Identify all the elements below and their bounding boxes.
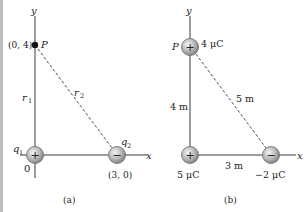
charge-q2: − (109, 147, 126, 164)
diagram-canvas: y x (0, 4) P r 1 r 2 + q 1 0 − (0, 0, 306, 212)
r1-subscript: 1 (28, 97, 32, 105)
point-p-dot (32, 42, 38, 48)
point-p-label-a: P (40, 39, 48, 50)
hypotenuse-dashed-line (193, 50, 266, 148)
charge-neg2uc-label: −2 μC (255, 169, 285, 180)
caption-a: (a) (63, 195, 75, 205)
point-p-coords: (0, 4) (8, 40, 32, 50)
point-p-charge: 4 μC (201, 38, 224, 49)
caption-b: (b) (224, 195, 237, 205)
charge-neg2uc: − (263, 147, 280, 164)
panel-a: y x (0, 4) P r 1 r 2 + q 1 0 − (8, 5, 152, 205)
charge-p: + (182, 39, 199, 56)
panel-b: y x + P 4 μC 4 m 5 m 3 m + 5 μC − (170, 5, 303, 205)
charge-5uc-label: 5 μC (177, 169, 200, 180)
minus-sign-icon: − (112, 149, 121, 162)
minus-sign-icon: − (266, 149, 275, 162)
plus-sign-icon: + (185, 149, 194, 162)
hypotenuse-distance-label: 5 m (236, 93, 254, 104)
y-axis-label-b: y (185, 5, 192, 16)
vertical-distance-label: 4 m (170, 101, 188, 112)
y-axis-label-a: y (30, 5, 37, 16)
origin-label: 0 (24, 163, 30, 174)
plus-sign-icon: + (185, 41, 194, 54)
plus-sign-icon: + (30, 149, 39, 162)
point-p-label-b: P (171, 41, 179, 52)
charge-5uc: + (182, 147, 199, 164)
q1-subscript: 1 (19, 149, 23, 157)
figure-frame: y x (0, 4) P r 1 r 2 + q 1 0 − (0, 0, 306, 212)
charge-q1: + (27, 147, 44, 164)
q2-coords: (3, 0) (108, 170, 132, 180)
x-axis-label-a: x (146, 150, 152, 161)
q2-subscript: 2 (127, 142, 131, 150)
r2-subscript: 2 (80, 92, 84, 100)
x-axis-label-b: x (297, 150, 303, 161)
horizontal-distance-label: 3 m (225, 160, 243, 171)
